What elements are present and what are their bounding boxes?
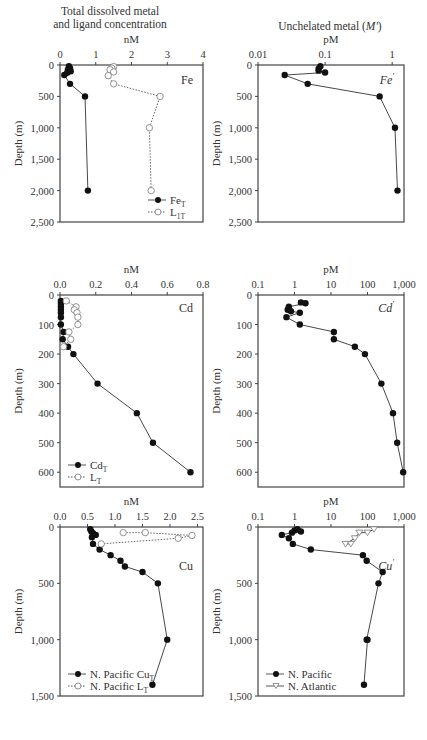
data-point xyxy=(187,469,193,475)
data-point xyxy=(75,314,81,320)
x-axis-label: nM xyxy=(124,263,140,275)
data-point xyxy=(304,81,310,87)
panel-cu_total: nM0.00.51.01.52.02.505001,0001,500Depth … xyxy=(12,495,204,702)
y-tick-label: 600 xyxy=(38,467,54,478)
x-tick-label: 0.5 xyxy=(81,511,94,522)
y-tick-label: 500 xyxy=(38,91,54,102)
data-point xyxy=(75,321,81,327)
data-point xyxy=(298,528,304,534)
data-point xyxy=(150,439,156,445)
data-point xyxy=(363,558,369,564)
x-axis-label: pM xyxy=(323,495,339,507)
data-point xyxy=(376,93,382,99)
series-line xyxy=(282,529,383,684)
data-point xyxy=(288,308,294,314)
data-point xyxy=(289,529,295,535)
y-tick-label: 200 xyxy=(38,349,54,360)
y-tick-label: 300 xyxy=(236,379,252,390)
x-tick-label: 0.0 xyxy=(53,279,66,290)
plot-frame xyxy=(258,65,404,222)
data-point xyxy=(379,569,385,575)
x-tick-label: 1,000 xyxy=(392,279,416,290)
y-tick-label: 1,000 xyxy=(228,635,252,646)
data-point xyxy=(120,529,126,535)
data-point xyxy=(283,314,289,320)
legend-label: N. Atlantic xyxy=(288,680,336,692)
y-tick-label: 200 xyxy=(236,349,252,360)
data-point xyxy=(375,580,381,586)
data-point xyxy=(85,187,91,193)
x-tick-label: 0.4 xyxy=(125,279,139,290)
plot-frame xyxy=(60,295,203,487)
data-point xyxy=(360,552,366,558)
data-point xyxy=(122,563,128,569)
panel-title: Cu xyxy=(179,559,193,573)
data-point xyxy=(90,541,96,547)
x-tick-label: 1 xyxy=(390,49,395,60)
y-tick-label: 0 xyxy=(49,290,54,301)
x-tick-label: 2.0 xyxy=(163,511,176,522)
panel-title: Fe xyxy=(181,73,193,87)
x-tick-label: 1,000 xyxy=(392,511,416,522)
y-tick-label: 100 xyxy=(38,320,54,331)
y-tick-label: 400 xyxy=(236,408,252,419)
panel-cu_free: pM0.11101001,00005001,0001,500Depth (m)C… xyxy=(210,495,416,702)
x-tick-label: 0.6 xyxy=(161,279,174,290)
panel-title: Cd xyxy=(179,301,193,315)
x-tick-label: 1.0 xyxy=(108,511,121,522)
y-tick-label: 500 xyxy=(38,578,54,589)
data-point xyxy=(290,541,296,547)
y-tick-label: 1,500 xyxy=(228,691,252,702)
data-point xyxy=(308,546,314,552)
y-axis-label: Depth (m) xyxy=(210,588,223,634)
x-tick-label: 0.01 xyxy=(249,49,267,60)
plot-frame xyxy=(258,295,404,487)
x-tick-label: 1 xyxy=(292,511,297,522)
y-tick-label: 2,000 xyxy=(30,186,54,197)
data-point xyxy=(82,93,88,99)
panel-fe_free: pM0.010.1105001,0001,5002,0002,500Depth … xyxy=(210,33,404,228)
x-tick-label: 0.1 xyxy=(251,511,264,522)
x-tick-label: 0.0 xyxy=(53,511,66,522)
y-tick-label: 1,500 xyxy=(30,691,54,702)
panel-title: Cd' xyxy=(378,300,394,315)
data-point xyxy=(157,93,163,99)
data-point xyxy=(361,682,367,688)
data-point xyxy=(60,343,66,349)
x-tick-label: 0 xyxy=(57,49,62,60)
panel-title: Fe' xyxy=(379,72,395,87)
data-point xyxy=(378,380,384,386)
data-point xyxy=(394,439,400,445)
data-point xyxy=(58,314,64,320)
data-point xyxy=(89,534,95,540)
x-tick-label: 0.1 xyxy=(319,49,332,60)
y-tick-label: 0 xyxy=(247,60,252,71)
panel-fe_total: nM0123405001,0001,5002,0002,500Depth (m)… xyxy=(12,33,206,228)
legend-label: N. Pacific LT xyxy=(90,680,148,695)
data-point xyxy=(351,536,358,542)
data-point xyxy=(61,72,67,78)
y-tick-label: 1,000 xyxy=(228,123,252,134)
data-point xyxy=(66,329,72,335)
y-tick-label: 500 xyxy=(38,438,54,449)
y-axis-label: Depth (m) xyxy=(210,120,223,166)
x-tick-label: 2.5 xyxy=(191,511,204,522)
data-point xyxy=(142,529,148,535)
data-point xyxy=(400,469,406,475)
data-point xyxy=(68,336,74,342)
panel-cd_free: pM0.11101001,0000100200300400500600Depth… xyxy=(210,263,416,487)
y-tick-label: 500 xyxy=(236,578,252,589)
legend-label: N. Pacific xyxy=(288,668,332,680)
x-tick-label: 1 xyxy=(93,49,98,60)
data-point xyxy=(98,541,104,547)
data-point xyxy=(352,343,358,349)
data-point xyxy=(362,351,368,357)
data-point xyxy=(390,410,396,416)
data-point xyxy=(394,187,400,193)
x-tick-label: 1.5 xyxy=(136,511,149,522)
data-point xyxy=(59,336,65,342)
data-point xyxy=(139,569,145,575)
data-point xyxy=(364,636,370,642)
y-tick-label: 0 xyxy=(49,522,54,533)
legend: N. Pacific CuTN. Pacific LT xyxy=(68,668,155,695)
